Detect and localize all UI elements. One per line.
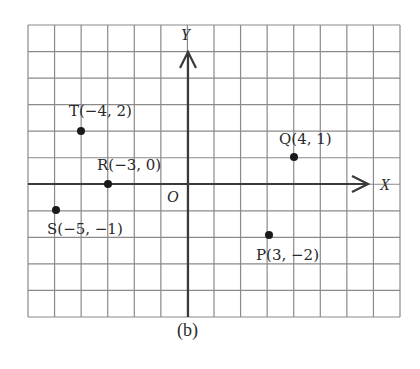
point-p: P(3, −2) — [256, 231, 319, 264]
point-r-label: R(−3, 0) — [97, 156, 161, 174]
figure-caption: (b) — [177, 320, 198, 341]
point-q-label: Q(4, 1) — [279, 130, 332, 148]
coordinate-plane: X Y O T(−4, 2) R(−3, 0) S(−5, −1) Q(4, 1… — [0, 0, 420, 369]
x-axis — [28, 176, 368, 192]
point-p-label: P(3, −2) — [256, 246, 319, 264]
grid — [28, 25, 400, 317]
point-q: Q(4, 1) — [279, 130, 332, 161]
point-t-label: T(−4, 2) — [69, 102, 132, 120]
x-axis-label: X — [379, 176, 391, 193]
y-axis-label: Y — [181, 26, 192, 43]
origin-label: O — [167, 188, 179, 205]
point-t: T(−4, 2) — [69, 102, 132, 135]
point-s-label: S(−5, −1) — [47, 220, 123, 238]
